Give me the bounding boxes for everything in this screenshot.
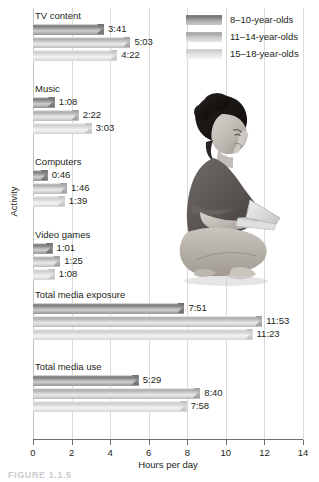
bar-body — [33, 110, 79, 121]
bar-value-label-2-0: 0:46 — [52, 170, 71, 180]
figure-bar-chart-media-use: TV content3:415:034:22Music1:082:223:03C… — [0, 0, 319, 482]
legend-label-15-18: 15–18-year-olds — [230, 48, 299, 60]
group-label-1: Music — [35, 84, 60, 94]
bar-value-label-4-1: 11:53 — [266, 316, 289, 326]
bar-value-label-0-0: 3:41 — [108, 24, 127, 34]
y-axis-title: Activity — [8, 172, 19, 232]
bar-value-label-5-0: 5:29 — [143, 375, 162, 385]
x-tick-label-6: 6 — [146, 447, 151, 458]
bar-4-1 — [33, 316, 262, 326]
bar-5-0 — [33, 375, 139, 385]
bar-value-label-5-2: 7:58 — [191, 401, 210, 411]
legend-swatch-icon-11-14 — [186, 32, 222, 42]
bar-value-label-2-2: 1:39 — [69, 196, 88, 206]
legend-label-11-14: 11–14-year-olds — [230, 31, 298, 43]
bar-1-1 — [33, 110, 79, 120]
bar-value-label-0-1: 5:03 — [134, 37, 153, 47]
bar-body — [33, 388, 200, 399]
bar-0-1 — [33, 37, 130, 47]
group-label-2: Computers — [35, 157, 81, 167]
x-tick-0 — [33, 440, 34, 445]
bar-0-0 — [33, 24, 104, 34]
bar-body — [33, 316, 262, 327]
group-label-0: TV content — [35, 11, 81, 21]
x-tick-label-2: 2 — [69, 447, 74, 458]
bar-3-2 — [33, 269, 55, 279]
figure-caption: FIGURE 1.1.5 — [8, 470, 72, 480]
bar-2-2 — [33, 196, 65, 206]
bar-body — [33, 50, 117, 61]
legend-swatch-icon-15-18 — [186, 49, 222, 59]
bar-value-label-3-1: 1:25 — [64, 256, 83, 266]
bar-5-2 — [33, 401, 187, 411]
bar-body — [33, 303, 184, 314]
bar-1-0 — [33, 97, 55, 107]
bar-body — [33, 123, 92, 134]
bar-1-2 — [33, 123, 92, 133]
x-tick-10 — [226, 440, 227, 445]
bar-4-2 — [33, 329, 253, 339]
legend-swatch-icon-8-10 — [186, 15, 222, 25]
bar-value-label-2-1: 1:46 — [71, 183, 90, 193]
bar-0-2 — [33, 50, 117, 60]
bar-body — [33, 329, 253, 340]
x-tick-label-14: 14 — [298, 447, 309, 458]
legend-label-8-10: 8–10-year-olds — [230, 14, 293, 26]
group-label-5: Total media use — [35, 362, 102, 372]
group-label-3: Video games — [35, 230, 90, 240]
bar-body — [33, 24, 104, 35]
bar-value-label-4-0: 7:51 — [188, 303, 207, 313]
x-tick-12 — [264, 440, 265, 445]
bar-2-1 — [33, 183, 67, 193]
x-tick-4 — [110, 440, 111, 445]
x-tick-label-4: 4 — [107, 447, 112, 458]
x-tick-label-12: 12 — [259, 447, 270, 458]
bar-value-label-5-1: 8:40 — [204, 388, 223, 398]
bar-value-label-1-1: 2:22 — [83, 110, 102, 120]
x-tick-label-8: 8 — [185, 447, 190, 458]
x-axis-line — [33, 439, 303, 440]
bar-value-label-0-2: 4:22 — [121, 50, 140, 60]
x-tick-8 — [187, 440, 188, 445]
x-tick-label-10: 10 — [221, 447, 232, 458]
bar-body — [33, 37, 130, 48]
bar-4-0 — [33, 303, 184, 313]
x-tick-6 — [149, 440, 150, 445]
bar-3-0 — [33, 243, 53, 253]
gridline-14 — [303, 8, 304, 440]
bar-body — [33, 375, 139, 386]
bar-value-label-4-2: 11:23 — [257, 329, 280, 339]
x-tick-14 — [303, 440, 304, 445]
bar-value-label-1-0: 1:08 — [59, 97, 78, 107]
x-axis-title: Hours per day — [33, 459, 303, 470]
group-label-4: Total media exposure — [35, 290, 125, 300]
bar-2-0 — [33, 170, 48, 180]
x-tick-2 — [72, 440, 73, 445]
x-tick-label-0: 0 — [30, 447, 35, 458]
bar-value-label-3-0: 1:01 — [57, 243, 76, 253]
bar-body — [33, 401, 187, 412]
bar-5-1 — [33, 388, 200, 398]
bar-3-1 — [33, 256, 60, 266]
photo-woman-with-laptop — [176, 92, 286, 288]
bar-value-label-1-2: 3:03 — [96, 123, 115, 133]
bar-value-label-3-2: 1:08 — [59, 269, 78, 279]
